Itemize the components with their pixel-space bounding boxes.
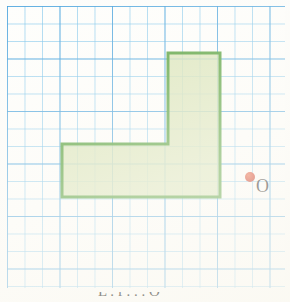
figure-canvas: O L . f . . . O [0,0,290,302]
point-o-label: O [256,177,269,195]
point-o-dot [245,172,255,182]
caption-text: L . f . . . O [98,292,160,300]
l-shape-wash [62,53,220,197]
caption-clip: L . f . . . O [0,292,290,302]
l-shape-svg [0,0,290,302]
